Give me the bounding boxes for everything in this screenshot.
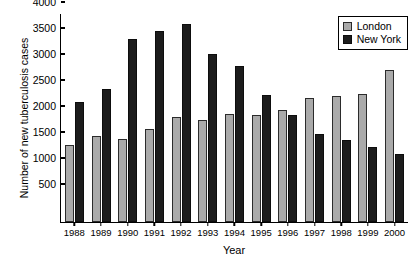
- bar-london-1994: [225, 114, 234, 222]
- x-tick-mark: [341, 222, 342, 226]
- bar-london-1993: [198, 120, 207, 222]
- y-tick-2000: 2000: [33, 100, 61, 112]
- bar-group: 1990: [114, 14, 141, 222]
- bar-london-1995: [252, 115, 261, 222]
- x-tick-mark: [74, 222, 75, 226]
- legend-item-new-york: New York: [343, 33, 401, 46]
- x-tick-label-1989: 1989: [90, 227, 111, 238]
- x-tick-mark: [394, 222, 395, 226]
- x-tick-label-1998: 1998: [331, 227, 352, 238]
- legend-item-london: London: [343, 20, 401, 33]
- y-axis-title: Number of new tuberculosis cases: [18, 18, 30, 218]
- bar-new-york-1998: [342, 140, 351, 222]
- bar-new-york-2000: [395, 154, 404, 222]
- bar-new-york-1994: [235, 66, 244, 222]
- x-tick-label-1991: 1991: [144, 227, 165, 238]
- x-tick-label-1992: 1992: [171, 227, 192, 238]
- bar-london-1988: [65, 145, 74, 222]
- x-tick-mark: [154, 222, 155, 226]
- bar-group: 1993: [194, 14, 221, 222]
- x-axis-title: Year: [60, 244, 408, 256]
- x-tick-label-1993: 1993: [197, 227, 218, 238]
- x-tick-label-1999: 1999: [357, 227, 378, 238]
- tuberculosis-bar-chart: Number of new tuberculosis cases 5001000…: [0, 0, 416, 265]
- bar-new-york-1999: [368, 147, 377, 222]
- legend-label-new-york: New York: [357, 33, 401, 46]
- bar-group: 1992: [168, 14, 195, 222]
- bar-group: 1996: [275, 14, 302, 222]
- x-tick-mark: [367, 222, 368, 226]
- bar-new-york-1997: [315, 134, 324, 222]
- bar-new-york-1988: [75, 102, 84, 222]
- x-tick-label-1990: 1990: [117, 227, 138, 238]
- x-tick-mark: [100, 222, 101, 226]
- bar-group: 1997: [301, 14, 328, 222]
- bar-london-1996: [278, 110, 287, 222]
- bar-london-1992: [172, 117, 181, 222]
- x-tick-mark: [287, 222, 288, 226]
- bar-new-york-1995: [262, 95, 271, 222]
- legend-swatch-new-york: [343, 35, 352, 44]
- bar-group: 1994: [221, 14, 248, 222]
- x-tick-mark: [234, 222, 235, 226]
- bar-new-york-1992: [182, 24, 191, 222]
- y-tick-1000: 1000: [33, 152, 61, 164]
- bar-group: 1991: [141, 14, 168, 222]
- bar-london-1991: [145, 129, 154, 222]
- x-tick-label-1994: 1994: [224, 227, 245, 238]
- x-tick-mark: [207, 222, 208, 226]
- bar-london-2000: [385, 70, 394, 222]
- x-tick-label-1995: 1995: [251, 227, 272, 238]
- y-tick-4000: 4000: [33, 0, 61, 8]
- x-tick-label-2000: 2000: [384, 227, 405, 238]
- y-tick-500: 500: [38, 178, 61, 190]
- x-tick-mark: [314, 222, 315, 226]
- chart-legend: London New York: [338, 16, 408, 50]
- bar-group: 1988: [61, 14, 88, 222]
- bar-new-york-1996: [288, 115, 297, 222]
- y-tick-mark: [61, 1, 65, 2]
- bar-new-york-1989: [102, 89, 111, 222]
- bar-london-1999: [358, 94, 367, 222]
- y-tick-3500: 3500: [33, 22, 61, 34]
- bar-london-1990: [118, 139, 127, 222]
- x-tick-mark: [127, 222, 128, 226]
- bar-new-york-1993: [208, 54, 217, 222]
- bar-new-york-1991: [155, 31, 164, 222]
- x-tick-mark: [180, 222, 181, 226]
- bar-group: 1995: [248, 14, 275, 222]
- x-tick-mark: [260, 222, 261, 226]
- y-tick-2500: 2500: [33, 74, 61, 86]
- x-tick-label-1997: 1997: [304, 227, 325, 238]
- bar-london-1989: [92, 136, 101, 222]
- bar-london-1997: [305, 98, 314, 222]
- y-tick-1500: 1500: [33, 126, 61, 138]
- bar-group: 1989: [88, 14, 115, 222]
- legend-label-london: London: [357, 20, 392, 33]
- y-tick-3000: 3000: [33, 48, 61, 60]
- legend-swatch-london: [343, 22, 352, 31]
- bar-new-york-1990: [128, 39, 137, 222]
- x-tick-label-1988: 1988: [64, 227, 85, 238]
- x-tick-label-1996: 1996: [277, 227, 298, 238]
- bar-london-1998: [332, 96, 341, 222]
